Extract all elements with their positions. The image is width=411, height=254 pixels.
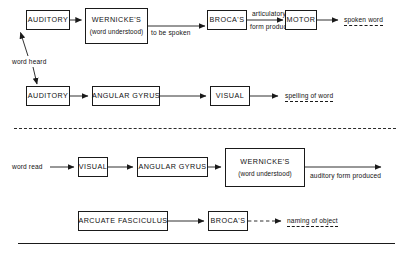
node-motor-1[interactable]: MOTOR xyxy=(285,10,317,30)
edge-label-articulatory-line1: articulatory xyxy=(252,10,286,18)
node-label: BROCA'S xyxy=(211,217,246,225)
output-auditory-form-produced: auditory form produced xyxy=(310,172,381,180)
node-label: WERNICKE'S xyxy=(92,16,141,24)
input-word-read: word read xyxy=(12,163,43,171)
node-label: VISUAL xyxy=(216,92,244,100)
node-label: VISUAL xyxy=(79,163,107,171)
node-angular-gyrus-1[interactable]: ANGULAR GYRUS xyxy=(92,86,160,106)
output-spelling-of-word: spelling of word xyxy=(285,92,333,102)
node-angular-gyrus-2[interactable]: ANGULAR GYRUS xyxy=(137,157,208,177)
connector-layer xyxy=(0,0,411,254)
node-label: MOTOR xyxy=(287,16,316,24)
node-visual-2[interactable]: VISUAL xyxy=(78,157,108,177)
node-auditory-1[interactable]: AUDITORY xyxy=(26,10,70,30)
node-arcuate-fasciculus[interactable]: ARCUATE FASCICULUS xyxy=(78,211,168,231)
node-sublabel: (word understood) xyxy=(238,170,292,177)
output-spoken-word: spoken word xyxy=(344,16,383,26)
bottom-rule xyxy=(18,243,395,244)
node-wernickes-2[interactable]: WERNICKE'S (word understood) xyxy=(225,148,305,187)
node-label: WERNICKE'S xyxy=(240,158,289,166)
node-wernickes-1[interactable]: WERNICKE'S (word understood) xyxy=(85,8,148,44)
output-naming-of-object: naming of object xyxy=(287,217,338,227)
edge-label-to-be-spoken: to be spoken xyxy=(151,29,191,37)
node-visual-1[interactable]: VISUAL xyxy=(210,86,250,106)
node-sublabel: (word understood) xyxy=(90,28,144,35)
input-word-heard: word heard xyxy=(12,58,47,66)
node-label: ANGULAR GYRUS xyxy=(138,163,206,171)
node-label: ARCUATE FASCICULUS xyxy=(78,217,167,225)
node-label: AUDITORY xyxy=(28,92,68,100)
node-label: AUDITORY xyxy=(28,16,68,24)
section-divider-dashed xyxy=(14,128,396,129)
node-auditory-2[interactable]: AUDITORY xyxy=(26,86,70,106)
node-label: ANGULAR GYRUS xyxy=(92,92,160,100)
diagram-canvas: AUDITORY WERNICKE'S (word understood) to… xyxy=(0,0,411,254)
node-brocas-2[interactable]: BROCA'S xyxy=(208,211,248,231)
node-brocas-1[interactable]: BROCA'S xyxy=(207,10,247,30)
node-label: BROCA'S xyxy=(210,16,245,24)
